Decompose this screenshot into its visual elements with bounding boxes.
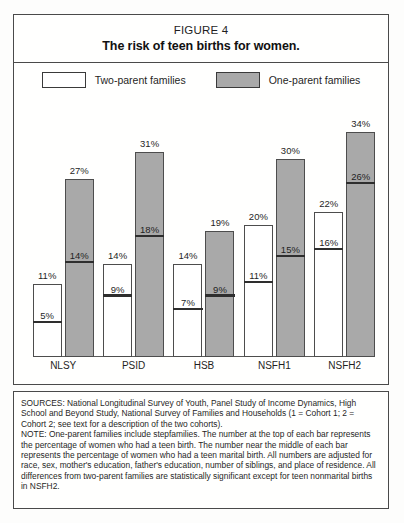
bar-wrap-nsfh1-two: 11%20% <box>244 225 273 357</box>
bar-inner-marker <box>103 294 132 296</box>
category-label-hsb: HSB <box>173 360 234 371</box>
bar-group-nlsy: 5%11%14%27% <box>33 179 94 358</box>
bar-group-nsfh1: 11%20%15%30% <box>244 159 305 357</box>
legend-swatch-icon-one-parent <box>216 72 260 88</box>
figure-number: FIGURE 4 <box>174 23 229 37</box>
bar-wrap-nlsy-one: 14%27% <box>65 179 94 358</box>
bar-nlsy-two: 5%11% <box>33 284 62 357</box>
category-label-nsfh1: NSFH1 <box>244 360 305 371</box>
bar-inner-label: 15% <box>281 244 300 255</box>
legend-item-two-parent: Two-parent families <box>42 72 186 88</box>
bar-nlsy-one: 14%27% <box>65 179 94 358</box>
bar-total-label: 19% <box>210 217 229 228</box>
figure-title-box: FIGURE 4 The risk of teen births for wom… <box>14 15 388 63</box>
bar-inner-marker <box>346 182 375 184</box>
bar-inner-marker <box>276 255 305 257</box>
footnote-box: SOURCES: National Longitudinal Survey of… <box>13 391 389 509</box>
category-label-nsfh2: NSFH2 <box>314 360 375 371</box>
bar-inner-marker <box>65 261 94 263</box>
category-label-nlsy: NLSY <box>33 360 94 371</box>
bar-inner-label: 16% <box>319 237 338 248</box>
bar-wrap-psid-two: 9%14% <box>103 264 132 357</box>
legend-swatch-icon-two-parent <box>42 72 86 88</box>
bar-wrap-nlsy-two: 5%11% <box>33 284 62 357</box>
bar-inner-marker <box>173 308 202 310</box>
bar-inner-marker <box>314 248 343 250</box>
bar-inner-marker <box>135 235 164 237</box>
bar-inner-label: 14% <box>70 250 89 261</box>
bar-nsfh1-two: 11%20% <box>244 225 273 357</box>
bar-inner-marker <box>205 294 234 296</box>
bar-total-label: 27% <box>70 165 89 176</box>
bar-total-label: 14% <box>108 250 127 261</box>
plot-area: 5%11%14%27%9%14%18%31%7%14%9%19%11%20%15… <box>14 97 390 384</box>
bar-psid-two: 9%14% <box>103 264 132 357</box>
bar-nsfh2-one: 26%34% <box>346 132 375 357</box>
bar-hsb-one: 9%19% <box>205 231 234 357</box>
bar-inner-label: 9% <box>213 284 227 295</box>
bar-group-psid: 9%14%18%31% <box>103 152 164 357</box>
legend-item-one-parent: One-parent families <box>216 72 361 88</box>
legend-label-one-parent: One-parent families <box>269 74 361 86</box>
bar-inner-label: 9% <box>111 284 125 295</box>
category-label-psid: PSID <box>103 360 164 371</box>
bar-wrap-psid-one: 18%31% <box>135 152 164 357</box>
bar-wrap-hsb-one: 9%19% <box>205 231 234 357</box>
figure-title: The risk of teen births for women. <box>102 38 299 54</box>
bar-groups: 5%11%14%27%9%14%18%31%7%14%9%19%11%20%15… <box>28 97 380 357</box>
bar-total-label: 34% <box>351 118 370 129</box>
bar-nsfh1-one: 15%30% <box>276 159 305 357</box>
bar-inner-label: 11% <box>249 270 267 281</box>
bar-inner-label: 26% <box>351 171 370 182</box>
bar-psid-one: 18%31% <box>135 152 164 357</box>
bar-total-label: 11% <box>38 270 56 281</box>
bar-total-label: 30% <box>281 145 300 156</box>
bar-group-nsfh2: 16%22%26%34% <box>314 132 375 357</box>
bar-total-label: 22% <box>319 198 338 209</box>
bar-inner-label: 7% <box>181 297 195 308</box>
chart-card: FIGURE 4 The risk of teen births for wom… <box>13 14 389 385</box>
bar-wrap-nsfh2-two: 16%22% <box>314 212 343 357</box>
bar-hsb-two: 7%14% <box>173 264 202 357</box>
plot-inner: 5%11%14%27%9%14%18%31%7%14%9%19%11%20%15… <box>28 97 380 384</box>
bar-wrap-nsfh2-one: 26%34% <box>346 132 375 357</box>
figure-container: FIGURE 4 The risk of teen births for wom… <box>0 0 404 523</box>
sources-note: SOURCES: National Longitudinal Survey of… <box>21 398 381 429</box>
general-note: NOTE: One-parent families include stepfa… <box>21 429 381 491</box>
chart-legend: Two-parent families One-parent families <box>14 63 388 97</box>
legend-label-two-parent: Two-parent families <box>95 74 186 86</box>
bar-total-label: 31% <box>140 138 159 149</box>
category-axis-labels: NLSYPSIDHSBNSFH1NSFH2 <box>28 360 380 380</box>
bar-wrap-nsfh1-one: 15%30% <box>276 159 305 357</box>
bar-inner-label: 18% <box>140 224 159 235</box>
bar-inner-label: 5% <box>40 310 54 321</box>
bar-total-label: 20% <box>249 211 268 222</box>
bar-total-label: 14% <box>178 250 197 261</box>
bar-group-hsb: 7%14%9%19% <box>173 231 234 357</box>
bar-inner-marker <box>244 281 273 283</box>
bar-nsfh2-two: 16%22% <box>314 212 343 357</box>
bar-wrap-hsb-two: 7%14% <box>173 264 202 357</box>
bar-inner-marker <box>33 321 62 323</box>
